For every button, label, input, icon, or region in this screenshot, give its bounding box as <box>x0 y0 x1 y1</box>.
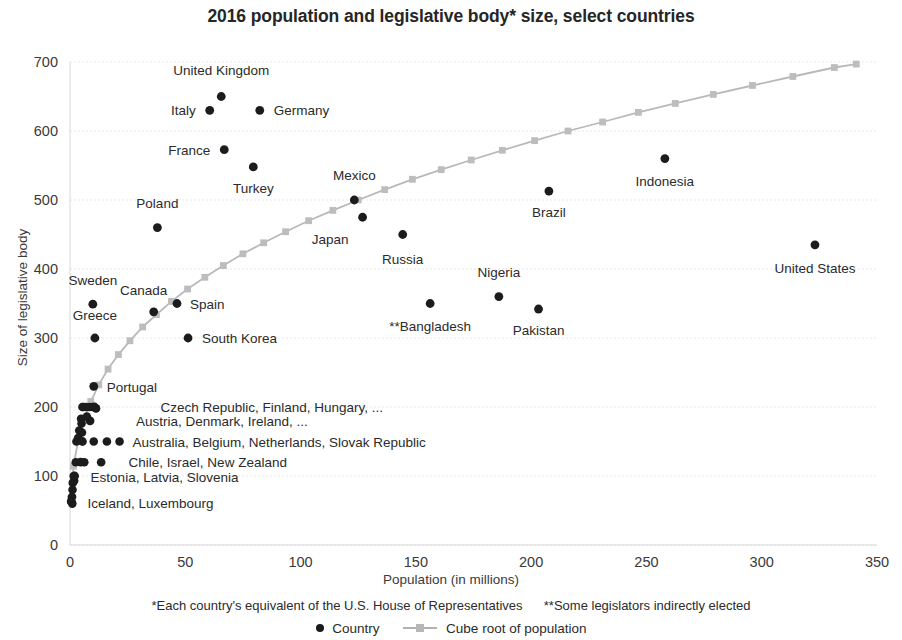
cube-root-marker <box>240 250 247 257</box>
country-point[interactable] <box>103 437 112 446</box>
cube-root-marker <box>531 137 538 144</box>
country-point[interactable] <box>255 106 264 115</box>
cube-root-marker <box>305 217 312 224</box>
x-tick-label: 200 <box>519 554 543 570</box>
country-point-label: Italy <box>171 103 196 118</box>
scatter-plot: 0100200300400500600700050100150200250300… <box>0 0 902 640</box>
country-point-label: Pakistan <box>513 323 565 338</box>
y-tick-label: 600 <box>34 123 58 139</box>
country-point-label: Russia <box>382 252 424 267</box>
legend-item-country[interactable]: Country <box>316 620 380 636</box>
x-tick-label: 350 <box>865 554 889 570</box>
country-point[interactable] <box>494 292 503 301</box>
country-point[interactable] <box>97 458 106 467</box>
x-tick-label: 250 <box>634 554 658 570</box>
country-point-label: Chile, Israel, New Zealand <box>129 455 287 470</box>
country-point-label: **Bangladesh <box>389 319 471 334</box>
y-tick-label: 200 <box>34 399 58 415</box>
country-point[interactable] <box>115 437 124 446</box>
country-point-label: Spain <box>190 297 225 312</box>
country-point-label: Greece <box>73 308 117 323</box>
country-point[interactable] <box>398 230 407 239</box>
footnote-2: **Some legislators indirectly elected <box>544 598 751 613</box>
country-point-label: Germany <box>274 103 330 118</box>
country-point-label: Australia, Belgium, Netherlands, Slovak … <box>132 435 426 450</box>
country-point[interactable] <box>350 196 359 205</box>
country-point[interactable] <box>67 497 76 506</box>
cube-root-marker <box>381 186 388 193</box>
country-point[interactable] <box>220 145 229 154</box>
country-point[interactable] <box>184 334 193 343</box>
cube-root-marker <box>220 262 227 269</box>
country-point[interactable] <box>426 299 435 308</box>
country-point-label: Brazil <box>532 205 566 220</box>
country-dot-icon <box>316 624 324 632</box>
x-tick-label: 300 <box>750 554 774 570</box>
cube-root-marker <box>499 147 506 154</box>
country-point-label: Austria, Denmark, Ireland, ... <box>136 414 308 429</box>
country-point-label: United States <box>774 261 855 276</box>
country-point[interactable] <box>811 240 820 249</box>
country-point[interactable] <box>76 458 85 467</box>
x-tick-label: 100 <box>288 554 312 570</box>
x-tick-label: 50 <box>177 554 193 570</box>
y-tick-label: 300 <box>34 330 58 346</box>
cube-root-marker <box>139 324 146 331</box>
y-tick-label: 400 <box>34 261 58 277</box>
country-point[interactable] <box>91 334 100 343</box>
country-point[interactable] <box>660 154 669 163</box>
cube-root-marker <box>127 337 134 344</box>
cube-root-marker <box>853 61 860 68</box>
legend-item-cube-root[interactable]: Cube root of population <box>403 620 586 636</box>
cube-root-marker <box>789 73 796 80</box>
footnotes: *Each country's equivalent of the U.S. H… <box>0 598 902 613</box>
cube-root-marker <box>635 109 642 116</box>
country-point-label: United Kingdom <box>173 63 269 78</box>
country-point-label: Sweden <box>68 273 117 288</box>
y-tick-label: 100 <box>34 468 58 484</box>
footnote-1: *Each country's equivalent of the U.S. H… <box>152 598 523 613</box>
country-point-label: Poland <box>136 196 178 211</box>
cube-root-marker <box>409 176 416 183</box>
cube-root-marker <box>710 91 717 98</box>
country-point[interactable] <box>544 187 553 196</box>
country-point-label: Nigeria <box>477 265 520 280</box>
country-point-label: France <box>168 143 210 158</box>
y-tick-label: 0 <box>50 537 58 553</box>
cube-root-marker <box>282 228 289 235</box>
country-point[interactable] <box>173 299 182 308</box>
country-point[interactable] <box>78 437 87 446</box>
cube-root-marker <box>599 119 606 126</box>
country-point[interactable] <box>534 305 543 314</box>
cube-root-marker <box>105 366 112 373</box>
country-point[interactable] <box>205 106 214 115</box>
x-axis-label: Population (in millions) <box>0 572 902 587</box>
country-point-label: Estonia, Latvia, Slovenia <box>91 470 239 485</box>
cube-root-marker <box>749 82 756 89</box>
cube-root-marker <box>565 128 572 135</box>
y-axis-label: Size of legislative body <box>15 188 30 408</box>
country-point[interactable] <box>89 382 98 391</box>
chart-figure: 2016 population and legislative body* si… <box>0 0 902 640</box>
legend-label-country: Country <box>332 621 379 636</box>
country-point-label: Portugal <box>107 380 157 395</box>
country-point-label: Iceland, Luxembourg <box>87 496 213 511</box>
country-point[interactable] <box>89 437 98 446</box>
cube-root-line-icon <box>403 623 437 633</box>
cube-root-marker <box>184 286 191 293</box>
country-point[interactable] <box>153 223 162 232</box>
country-point-label: Czech Republic, Finland, Hungary, ... <box>160 400 383 415</box>
country-point[interactable] <box>70 472 79 481</box>
cube-root-marker <box>260 239 267 246</box>
country-point[interactable] <box>149 307 158 316</box>
country-point[interactable] <box>249 162 258 171</box>
cube-root-marker <box>831 64 838 71</box>
cube-root-marker <box>329 207 336 214</box>
country-point[interactable] <box>217 92 226 101</box>
country-point[interactable] <box>358 213 367 222</box>
country-point[interactable] <box>86 416 95 425</box>
country-point-label: Indonesia <box>636 174 695 189</box>
country-point[interactable] <box>82 403 91 412</box>
x-tick-label: 0 <box>66 554 74 570</box>
country-point[interactable] <box>90 403 99 412</box>
